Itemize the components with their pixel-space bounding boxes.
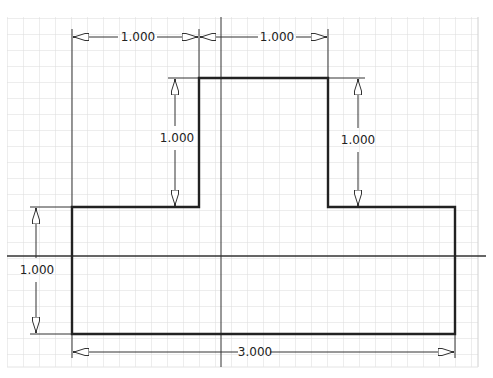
dimension-label[interactable]: 1.000 bbox=[341, 133, 375, 147]
dimension-label[interactable]: 1.000 bbox=[260, 30, 294, 44]
sketch-canvas[interactable]: 1.000 1.000 1.000 1.000 1.000 3.000 bbox=[0, 0, 493, 378]
dimension-label[interactable]: 1.000 bbox=[160, 131, 194, 145]
dimension-label[interactable]: 1.000 bbox=[20, 263, 54, 277]
grid bbox=[7, 17, 478, 367]
dimension-label[interactable]: 1.000 bbox=[121, 30, 155, 44]
dimension-label[interactable]: 3.000 bbox=[238, 345, 272, 359]
